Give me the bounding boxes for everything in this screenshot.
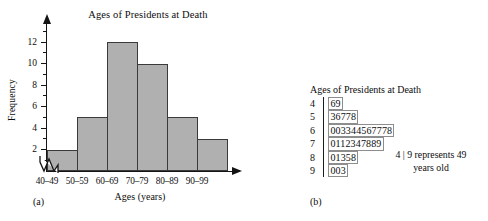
x-axis-title: Ages (years) bbox=[80, 191, 200, 202]
panel-a-label: (a) bbox=[33, 196, 44, 207]
bars-group bbox=[47, 36, 227, 171]
x-tick-label-60-69: 60–69 bbox=[91, 176, 123, 186]
y-tick-label-10: 10 bbox=[23, 58, 37, 68]
stem-value: 8 bbox=[310, 151, 323, 164]
x-tick-label-80-89: 80–89 bbox=[151, 176, 183, 186]
leaf-values: 69 bbox=[328, 97, 342, 110]
stem-row: 4 69 bbox=[310, 97, 394, 110]
y-tick-label-6: 6 bbox=[23, 101, 37, 111]
leaf-values: 01358 bbox=[328, 151, 358, 164]
stem-divider bbox=[323, 110, 324, 123]
bar-70-79 bbox=[137, 64, 168, 172]
leaf-values: 003344567778 bbox=[328, 124, 394, 137]
panel-b-label: (b) bbox=[310, 196, 322, 207]
x-tick-label-90-99: 90–99 bbox=[181, 176, 213, 186]
stem-value: 5 bbox=[310, 110, 323, 123]
leaf-values: 0112347889 bbox=[328, 137, 383, 150]
stem-divider bbox=[323, 97, 324, 110]
histogram-panel: Ages of Presidents at Death 2 4 6 8 10 1… bbox=[0, 0, 244, 221]
leaf-values: 003 bbox=[328, 164, 347, 177]
stem-value: 4 bbox=[310, 97, 323, 110]
axis-break-icon bbox=[38, 156, 60, 173]
stem-and-leaf-key: 4 | 9 represents 49 years old bbox=[378, 148, 484, 174]
key-line-2: years old bbox=[378, 161, 484, 174]
x-tick-label-70-79: 70–79 bbox=[121, 176, 153, 186]
stem-value: 7 bbox=[310, 137, 323, 150]
leaf-values: 36778 bbox=[328, 110, 358, 123]
y-tick-label-12: 12 bbox=[23, 37, 37, 47]
key-line-1: 4 | 9 represents 49 bbox=[378, 148, 484, 161]
stem-row: 5 36778 bbox=[310, 110, 394, 123]
y-tick-label-2: 2 bbox=[23, 144, 37, 154]
stem-and-leaf-panel: Ages of Presidents at Death 4 69 5 36778… bbox=[244, 0, 488, 221]
bar-50-59 bbox=[77, 117, 108, 171]
stem-value: 6 bbox=[310, 124, 323, 137]
histogram-title: Ages of Presidents at Death bbox=[58, 9, 238, 20]
bar-80-89 bbox=[167, 117, 198, 171]
y-axis-arrow-icon bbox=[43, 14, 51, 24]
stem-row: 6 003344567778 bbox=[310, 124, 394, 137]
x-tick-label-40-49: 40–49 bbox=[31, 176, 63, 186]
stem-divider bbox=[323, 124, 324, 137]
stem-divider bbox=[323, 137, 324, 150]
bar-60-69 bbox=[107, 42, 138, 171]
stem-value: 9 bbox=[310, 164, 323, 177]
y-tick-minor-13 bbox=[43, 31, 47, 32]
bar-90-99 bbox=[197, 139, 228, 171]
x-axis-arrow-icon bbox=[232, 167, 242, 175]
stem-divider bbox=[323, 151, 324, 164]
y-tick-label-4: 4 bbox=[23, 123, 37, 133]
stem-divider bbox=[323, 164, 324, 177]
x-tick-label-50-59: 50–59 bbox=[61, 176, 93, 186]
stem-and-leaf-title: Ages of Presidents at Death bbox=[310, 84, 421, 95]
y-tick-label-8: 8 bbox=[23, 80, 37, 90]
y-axis-title: Frequency bbox=[7, 70, 17, 130]
